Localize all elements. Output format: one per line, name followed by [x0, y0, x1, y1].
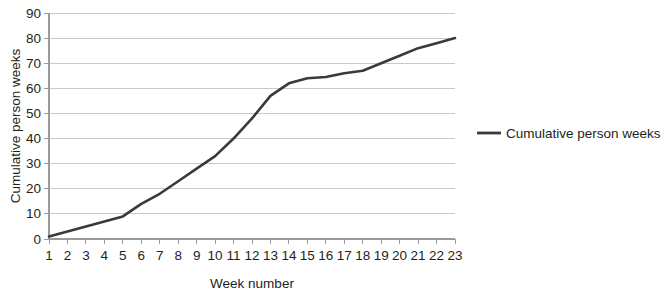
y-tick-label-0: 0	[33, 232, 41, 247]
x-tick-label-21: 21	[411, 248, 426, 263]
x-tick-label-9: 9	[193, 248, 201, 263]
x-tick-label-5: 5	[119, 248, 127, 263]
y-axis-title: Cumulative person weeks	[8, 48, 23, 203]
y-tick-labels: 90 80 70 60 50 40 30 20 10 0	[26, 6, 41, 247]
data-line-cumulative-person-weeks	[49, 38, 455, 236]
x-tick-label-15: 15	[300, 248, 315, 263]
x-tick-label-22: 22	[429, 248, 444, 263]
y-tick-label-40: 40	[26, 131, 41, 146]
x-tick-label-16: 16	[318, 248, 333, 263]
x-tick-label-3: 3	[82, 248, 90, 263]
y-tick-label-70: 70	[26, 56, 41, 71]
x-tick-label-7: 7	[156, 248, 164, 263]
x-tick-label-8: 8	[174, 248, 182, 263]
y-tick-marks	[44, 13, 49, 239]
y-tick-label-90: 90	[26, 6, 41, 21]
line-chart: 90 80 70 60 50 40 30 20 10 0 12345678910…	[0, 0, 670, 296]
x-tick-label-10: 10	[208, 248, 223, 263]
x-tick-label-4: 4	[101, 248, 109, 263]
x-tick-label-19: 19	[374, 248, 389, 263]
x-tick-label-13: 13	[263, 248, 278, 263]
x-axis-title: Week number	[210, 276, 294, 291]
x-tick-label-11: 11	[227, 248, 241, 263]
y-tick-label-50: 50	[26, 106, 41, 121]
x-tick-marks	[49, 239, 455, 244]
x-tick-label-12: 12	[244, 248, 259, 263]
y-tick-label-10: 10	[26, 206, 41, 221]
y-tick-label-60: 60	[26, 81, 41, 96]
chart-container: 90 80 70 60 50 40 30 20 10 0 12345678910…	[0, 0, 670, 296]
y-tick-label-20: 20	[26, 181, 41, 196]
x-tick-labels: 1234567891011121314151617181920212223	[45, 248, 462, 263]
x-tick-label-1: 1	[45, 248, 53, 263]
x-tick-label-17: 17	[337, 248, 352, 263]
x-tick-label-23: 23	[447, 248, 462, 263]
y-tick-label-30: 30	[26, 156, 41, 171]
x-tick-label-14: 14	[281, 248, 297, 263]
legend: Cumulative person weeks	[477, 126, 661, 141]
y-tick-label-80: 80	[26, 31, 41, 46]
gridlines	[49, 13, 455, 213]
x-tick-label-18: 18	[355, 248, 370, 263]
x-tick-label-2: 2	[64, 248, 72, 263]
data-series-group	[49, 38, 455, 236]
x-tick-label-6: 6	[138, 248, 146, 263]
x-tick-label-20: 20	[392, 248, 407, 263]
legend-label-cumulative-person-weeks: Cumulative person weeks	[506, 126, 661, 141]
